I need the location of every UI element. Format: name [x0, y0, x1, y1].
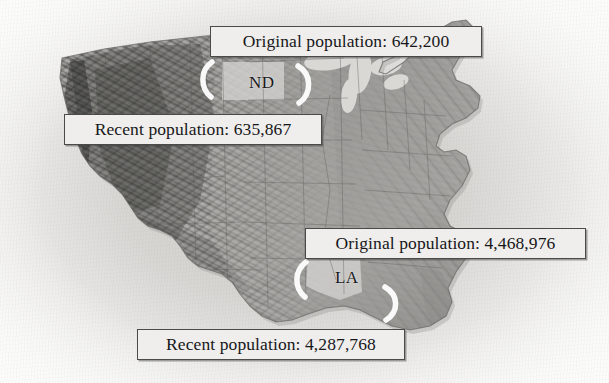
map-landmass — [50, 15, 500, 345]
annotated-map-figure: ND LA Original population: 642,200 Recen… — [0, 0, 609, 383]
callout-nd-original-population: Original population: 642,200 — [210, 26, 482, 57]
callout-la-recent-population: Recent population: 4,287,768 — [137, 329, 405, 360]
state-label-nd: ND — [249, 73, 274, 93]
callout-la-original-population: Original population: 4,468,976 — [305, 228, 586, 259]
callout-nd-recent-population: Recent population: 635,867 — [64, 114, 322, 145]
us-relief-map — [0, 0, 609, 383]
state-label-la: LA — [335, 268, 358, 288]
